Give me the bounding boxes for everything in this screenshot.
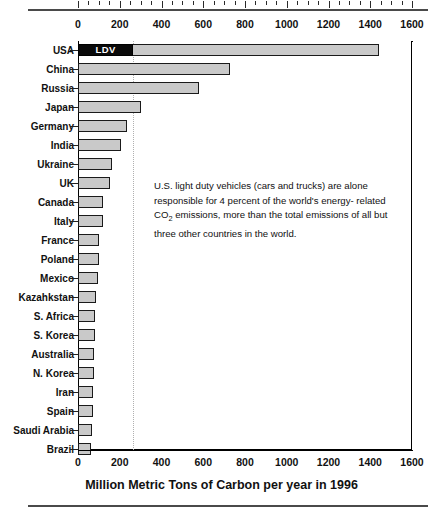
annotation-line-2: responsible for 4 percent of the world's… bbox=[154, 195, 354, 206]
axis-tick-minor bbox=[151, 1, 152, 5]
category-label: Ukraine bbox=[0, 155, 74, 174]
category-label: India bbox=[0, 136, 74, 155]
axis-tick-minor bbox=[214, 1, 215, 5]
x-axis-title: Million Metric Tons of Carbon per year i… bbox=[0, 478, 443, 492]
category-label: Japan bbox=[0, 98, 74, 117]
axis-tick-major bbox=[370, 1, 371, 8]
bottom-axis-line bbox=[78, 450, 413, 451]
category-label: UK bbox=[0, 174, 74, 193]
annotation-text: U.S. light duty vehicles (cars and truck… bbox=[154, 179, 406, 241]
axis-tick-label: 200 bbox=[111, 456, 129, 468]
category-label: Poland bbox=[0, 250, 74, 269]
axis-tick-minor bbox=[193, 1, 194, 5]
bar bbox=[78, 291, 96, 303]
bar-row: Ukraine bbox=[0, 155, 443, 174]
axis-tick-minor bbox=[297, 1, 298, 5]
axis-tick-minor bbox=[182, 1, 183, 5]
category-tick bbox=[70, 316, 78, 317]
axis-tick-minor bbox=[276, 1, 277, 5]
category-tick bbox=[70, 202, 78, 203]
axis-tick-minor bbox=[255, 1, 256, 5]
bar bbox=[78, 386, 93, 398]
axis-tick-label: 1000 bbox=[275, 456, 298, 468]
category-label: Russia bbox=[0, 79, 74, 98]
axis-tick-minor bbox=[224, 1, 225, 5]
bar bbox=[78, 139, 121, 151]
category-label: Germany bbox=[0, 117, 74, 136]
category-label: Brazil bbox=[0, 440, 74, 459]
axis-tick-label: 800 bbox=[236, 18, 254, 30]
chart-figure: 02004006008001000120014001600 USALDVChin… bbox=[0, 0, 443, 520]
axis-tick-label: 1400 bbox=[359, 456, 382, 468]
bar-row: China bbox=[0, 60, 443, 79]
category-tick bbox=[70, 373, 78, 374]
category-label: USA bbox=[0, 41, 74, 60]
axis-tick-minor bbox=[339, 1, 340, 5]
category-tick bbox=[70, 145, 78, 146]
category-label: Italy bbox=[0, 212, 74, 231]
axis-tick-label: 400 bbox=[153, 18, 171, 30]
category-tick bbox=[70, 392, 78, 393]
category-tick bbox=[70, 240, 78, 241]
bar-segment-ldv: LDV bbox=[78, 44, 133, 56]
bar bbox=[78, 196, 103, 208]
bar bbox=[78, 367, 94, 379]
category-tick bbox=[70, 449, 78, 450]
axis-tick-label: 800 bbox=[236, 456, 254, 468]
bar-row: Russia bbox=[0, 79, 443, 98]
bar-row: Saudi Arabia bbox=[0, 421, 443, 440]
bar bbox=[78, 101, 141, 113]
axis-tick-minor bbox=[266, 1, 267, 5]
axis-tick-minor bbox=[172, 1, 173, 5]
axis-tick-label: 1200 bbox=[317, 456, 340, 468]
axis-tick-label: 1400 bbox=[359, 18, 382, 30]
bar bbox=[78, 405, 93, 417]
category-label: China bbox=[0, 60, 74, 79]
axis-tick-major bbox=[287, 1, 288, 8]
annotation-line-3-post: emissions, more than the total emissions… bbox=[173, 209, 360, 220]
category-tick bbox=[70, 88, 78, 89]
axis-tick-minor bbox=[318, 1, 319, 5]
axis-tick-minor bbox=[99, 1, 100, 5]
category-label: Kazahkstan bbox=[0, 288, 74, 307]
category-tick bbox=[70, 50, 78, 51]
axis-tick-minor bbox=[402, 1, 403, 5]
category-label: Mexico bbox=[0, 269, 74, 288]
category-label: N. Korea bbox=[0, 364, 74, 383]
bar bbox=[78, 120, 127, 132]
axis-tick-minor bbox=[381, 1, 382, 5]
axis-tick-major bbox=[120, 1, 121, 8]
category-label: S. Africa bbox=[0, 307, 74, 326]
axis-tick-minor bbox=[235, 1, 236, 5]
bar bbox=[78, 234, 99, 246]
category-label: Spain bbox=[0, 402, 74, 421]
category-label: Australia bbox=[0, 345, 74, 364]
annotation-line-1: U.S. light duty vehicles (cars and truck… bbox=[154, 180, 368, 191]
bar bbox=[78, 329, 95, 341]
axis-tick-major bbox=[412, 1, 413, 8]
category-label: Iran bbox=[0, 383, 74, 402]
axis-tick-label: 1200 bbox=[317, 18, 340, 30]
bar-row: Spain bbox=[0, 402, 443, 421]
bar bbox=[78, 443, 91, 455]
axis-tick-label: 1600 bbox=[400, 18, 423, 30]
axis-tick-major bbox=[245, 1, 246, 8]
category-label: Canada bbox=[0, 193, 74, 212]
bar bbox=[78, 272, 98, 284]
bar bbox=[78, 215, 103, 227]
axis-tick-label: 1600 bbox=[400, 456, 423, 468]
axis-tick-minor bbox=[141, 1, 142, 5]
bar-row: S. Africa bbox=[0, 307, 443, 326]
bar bbox=[78, 158, 112, 170]
category-tick bbox=[70, 107, 78, 108]
category-tick bbox=[70, 183, 78, 184]
bottom-divider-rule bbox=[28, 505, 428, 507]
category-tick bbox=[70, 69, 78, 70]
top-divider-rule bbox=[28, 9, 428, 11]
axis-tick-label: 1000 bbox=[275, 18, 298, 30]
axis-tick-label: 600 bbox=[194, 456, 212, 468]
bar-row: Mexico bbox=[0, 269, 443, 288]
axis-tick-label: 200 bbox=[111, 18, 129, 30]
category-tick bbox=[70, 164, 78, 165]
axis-tick-minor bbox=[109, 1, 110, 5]
